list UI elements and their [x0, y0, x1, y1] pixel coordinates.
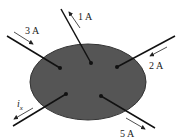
arrow-ix-icon	[14, 108, 33, 119]
label-3a: 3 A	[25, 25, 40, 36]
label-5a: 5 A	[120, 128, 135, 139]
label-2a: 2 A	[149, 60, 164, 71]
node-region	[30, 44, 146, 120]
label-ix: ix	[17, 98, 24, 112]
current-node-diagram: 1 A 3 A 2 A ix 5 A	[0, 0, 176, 139]
label-1a: 1 A	[78, 11, 93, 22]
